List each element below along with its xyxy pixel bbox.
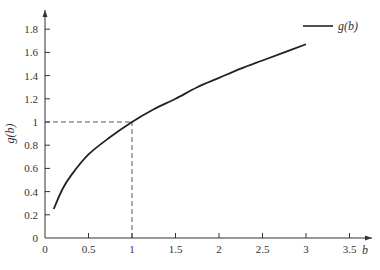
x-tick-label: 1 (129, 243, 135, 255)
y-tick-label: 1.6 (24, 46, 38, 58)
legend-label: g(b) (338, 19, 358, 33)
dashed-guides (45, 122, 132, 238)
y-axis-label: g(b) (3, 124, 17, 144)
chart: 00.511.522.533.500.20.40.60.811.21.41.61… (0, 0, 380, 270)
x-tick-label: 2.5 (256, 243, 270, 255)
x-tick-label: 2 (216, 243, 222, 255)
y-tick-label: 1 (33, 116, 39, 128)
y-tick-label: 0.4 (24, 186, 38, 198)
axes: 00.511.522.533.500.20.40.60.811.21.41.61… (3, 10, 372, 257)
x-axis-arrow-icon (365, 236, 372, 241)
series-line-g-b (54, 44, 306, 209)
data-series (54, 44, 306, 209)
x-tick-label: 3 (303, 243, 309, 255)
y-tick-label: 1.8 (24, 23, 38, 35)
x-tick-label: 0.5 (82, 243, 96, 255)
y-tick-label: 0.6 (24, 162, 38, 174)
y-axis-arrow-icon (43, 10, 48, 17)
legend: g(b) (303, 19, 358, 33)
y-tick-label: 0.8 (24, 139, 38, 151)
y-tick-label: 0 (33, 232, 39, 244)
x-tick-label: 3.5 (343, 243, 357, 255)
y-tick-label: 1.4 (24, 70, 38, 82)
y-tick-label: 1.2 (24, 93, 38, 105)
x-axis-label: b (362, 243, 368, 257)
y-tick-label: 0.2 (24, 209, 38, 221)
x-tick-label: 0 (42, 243, 48, 255)
x-tick-label: 1.5 (169, 243, 183, 255)
